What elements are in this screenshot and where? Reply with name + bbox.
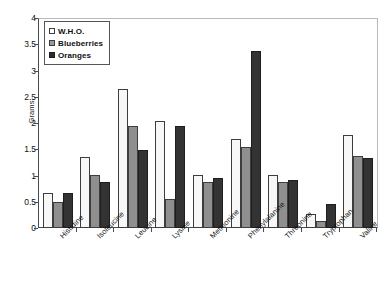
bar xyxy=(128,126,138,228)
chart-legend: W.H.O.BlueberriesOranges xyxy=(44,21,110,65)
y-axis-tick-mark xyxy=(34,149,38,150)
bar-group xyxy=(302,18,340,228)
bar xyxy=(90,175,100,228)
bar-group xyxy=(227,18,265,228)
legend-swatch-icon xyxy=(49,28,55,34)
bar-chart: Grams 43.532.521.510.50 HistidineIsoleuc… xyxy=(0,0,385,284)
y-axis-tick-label: 3.5 xyxy=(2,39,36,49)
bar xyxy=(316,221,326,228)
y-axis-tick-label: 0.5 xyxy=(2,197,36,207)
x-axis-category-labels: HistidineIsoleucineLeucineLysineMethioni… xyxy=(39,232,377,284)
bar xyxy=(353,156,363,228)
x-axis-label-cell: Methionine xyxy=(189,232,227,284)
y-axis-tick-label: 2.5 xyxy=(2,92,36,102)
y-axis-tick-label: 1 xyxy=(2,171,36,181)
y-axis-tick-mark xyxy=(34,202,38,203)
bar-group xyxy=(264,18,302,228)
legend-swatch-icon xyxy=(49,52,55,58)
bar xyxy=(138,150,148,228)
y-axis-tick-mark xyxy=(34,18,38,19)
bar xyxy=(155,121,165,228)
x-axis-label-cell: Phenylalanine xyxy=(227,232,265,284)
bar-group xyxy=(152,18,190,228)
legend-label: Blueberries xyxy=(58,39,103,48)
bar xyxy=(363,158,373,228)
x-axis-label-cell: Leucine xyxy=(114,232,152,284)
y-axis-tick-label: 2 xyxy=(2,118,36,128)
y-axis-tick-label: 1.5 xyxy=(2,144,36,154)
y-axis-tick-labels: 43.532.521.510.50 xyxy=(0,18,36,228)
legend-label: W.H.O. xyxy=(58,27,84,36)
bar-group xyxy=(114,18,152,228)
bar xyxy=(241,147,251,228)
x-axis-label-cell: Valine xyxy=(340,232,378,284)
bar xyxy=(251,51,261,228)
legend-item: Blueberries xyxy=(49,37,103,49)
legend-item: Oranges xyxy=(49,49,103,61)
bar xyxy=(118,89,128,228)
x-axis-label-cell: Tryptophan xyxy=(302,232,340,284)
bar-group xyxy=(340,18,378,228)
y-axis-tick-label: 4 xyxy=(2,13,36,23)
y-axis-tick-mark xyxy=(34,176,38,177)
bar xyxy=(193,175,203,228)
y-axis-tick-mark xyxy=(34,228,38,229)
bar xyxy=(53,202,63,228)
x-axis-label-cell: Histidine xyxy=(39,232,77,284)
y-axis-tick-mark xyxy=(34,123,38,124)
y-axis-tick-mark xyxy=(34,97,38,98)
y-axis-tick-label: 3 xyxy=(2,66,36,76)
bar xyxy=(175,126,185,228)
legend-label: Oranges xyxy=(58,51,91,60)
x-axis-label-cell: Isoleucine xyxy=(77,232,115,284)
y-axis-tick-label: 0 xyxy=(2,223,36,233)
x-axis-label-cell: Threonine xyxy=(264,232,302,284)
legend-swatch-icon xyxy=(49,40,55,46)
bar xyxy=(43,193,53,228)
legend-item: W.H.O. xyxy=(49,25,103,37)
y-axis-tick-mark xyxy=(34,44,38,45)
y-axis-tick-mark xyxy=(34,71,38,72)
bar xyxy=(203,182,213,228)
bar xyxy=(165,199,175,228)
bar-group xyxy=(189,18,227,228)
x-axis-label-cell: Lysine xyxy=(152,232,190,284)
